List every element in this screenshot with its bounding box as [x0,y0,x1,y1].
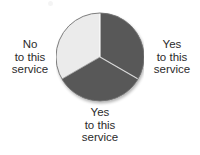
pie-label-yes-right-line3: service [146,63,198,76]
scan-artifact-speck [48,1,53,6]
pie-label-yes-bottom-line2: to this [60,119,140,132]
pie-label-yes-right-line1: Yes [146,38,198,51]
pie-chart-graphic [56,12,144,106]
pie-label-yes-bottom: Yes to this service [60,106,140,144]
pie-chart-figure: No to this service Yes to this service Y… [0,0,200,155]
pie-label-yes-right-line2: to this [146,51,198,64]
pie-label-yes-bottom-line1: Yes [60,106,140,119]
pie-label-no-left-line3: service [4,63,56,76]
pie-label-yes-bottom-line3: service [60,131,140,144]
pie-label-no-left-line1: No [4,38,56,51]
pie-label-no-left-line2: to this [4,51,56,64]
pie-label-no-left: No to this service [4,38,56,76]
pie-label-yes-right: Yes to this service [146,38,198,76]
